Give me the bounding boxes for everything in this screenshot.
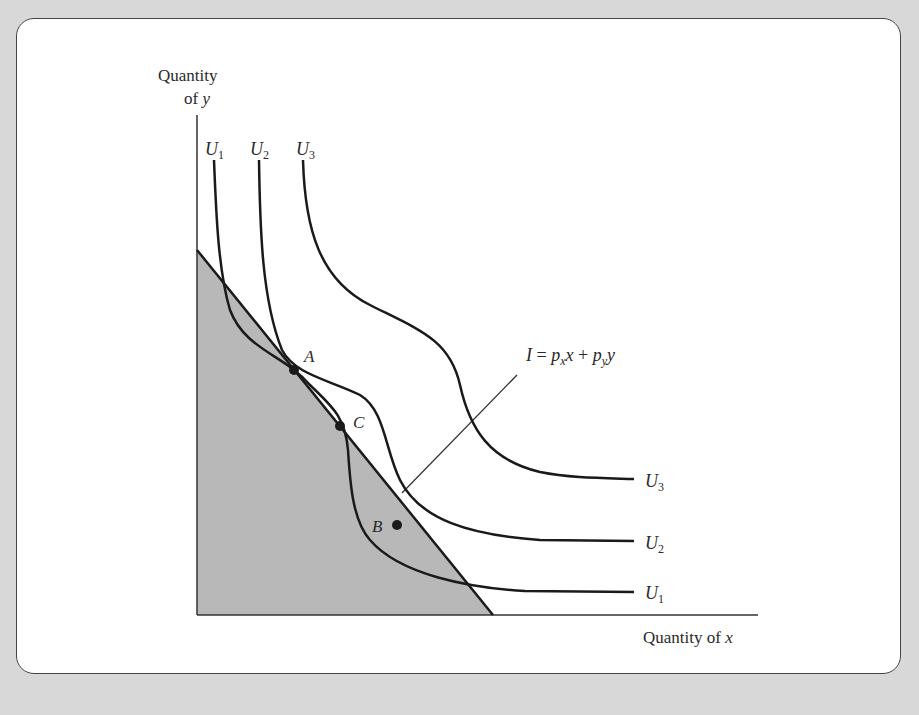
point-b-label: B xyxy=(372,517,383,536)
u2-top-label: U2 xyxy=(250,139,269,162)
u2-right-label: U2 xyxy=(645,533,664,556)
point-c-marker xyxy=(335,421,345,431)
point-b-marker xyxy=(392,520,402,530)
point-a-label: A xyxy=(303,347,315,366)
y-axis-label-line2: of y xyxy=(184,89,210,108)
y-axis-label-line1: Quantity xyxy=(158,66,218,85)
u3-right-label: U3 xyxy=(645,471,664,494)
indifference-curve-diagram: A C B Quantity of y Quantity of x U1 U2 … xyxy=(0,0,919,715)
point-c-label: C xyxy=(353,413,365,432)
u1-right-label: U1 xyxy=(645,583,664,606)
u3-top-label: U3 xyxy=(296,139,315,162)
budget-label-leader xyxy=(402,375,517,493)
u1-top-label: U1 xyxy=(205,139,224,162)
x-axis-label: Quantity of x xyxy=(643,628,733,647)
budget-line-equation: I = pxx + pyy xyxy=(525,345,615,368)
point-a-marker xyxy=(289,365,299,375)
